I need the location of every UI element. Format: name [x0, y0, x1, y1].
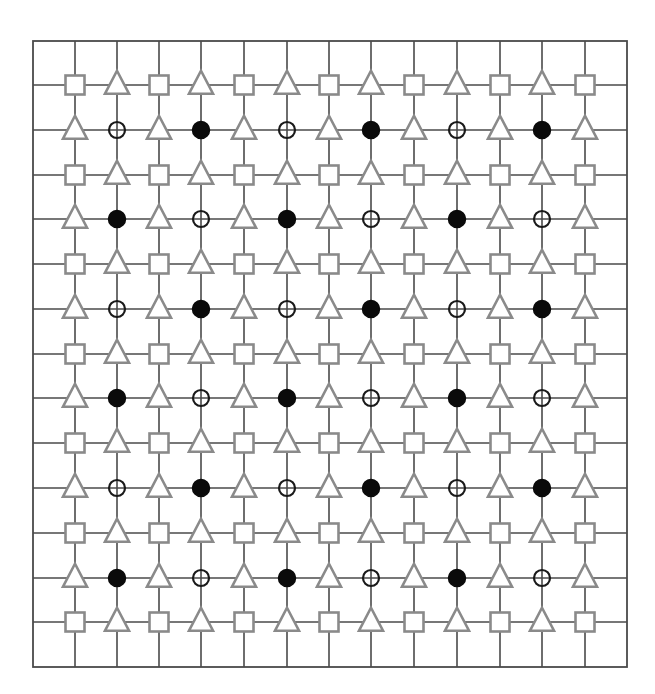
triangle-site-icon [445, 519, 469, 542]
square-site-icon [150, 524, 169, 543]
square-site-icon [576, 76, 595, 95]
square-site-icon [491, 345, 510, 364]
square-site-icon [235, 524, 254, 543]
triangle-site-icon [317, 474, 341, 497]
filled-circle-site-icon [109, 390, 126, 407]
filled-circle-site-icon [449, 570, 466, 587]
square-site-icon [576, 524, 595, 543]
square-site-icon [491, 524, 510, 543]
square-site-icon [150, 613, 169, 632]
triangle-site-icon [232, 384, 256, 407]
triangle-site-icon [530, 519, 554, 542]
square-site-icon [235, 166, 254, 185]
square-site-icon [405, 76, 424, 95]
square-site-icon [491, 255, 510, 274]
triangle-site-icon [359, 250, 383, 273]
triangle-site-icon [147, 295, 171, 318]
triangle-site-icon [445, 429, 469, 452]
triangle-site-icon [275, 519, 299, 542]
triangle-site-icon [63, 295, 87, 318]
triangle-site-icon [105, 161, 129, 184]
triangle-site-icon [530, 608, 554, 631]
triangle-site-icon [530, 250, 554, 273]
triangle-site-icon [488, 564, 512, 587]
triangle-site-icon [63, 564, 87, 587]
triangle-site-icon [275, 71, 299, 94]
square-site-icon [405, 524, 424, 543]
square-site-icon [66, 613, 85, 632]
square-site-icon [150, 255, 169, 274]
square-site-icon [235, 255, 254, 274]
filled-circle-site-icon [279, 390, 296, 407]
triangle-site-icon [63, 384, 87, 407]
triangle-site-icon [105, 429, 129, 452]
square-site-icon [320, 345, 339, 364]
square-site-icon [66, 255, 85, 274]
triangle-site-icon [573, 564, 597, 587]
triangle-site-icon [105, 340, 129, 363]
triangle-site-icon [402, 384, 426, 407]
filled-circle-site-icon [109, 570, 126, 587]
square-site-icon [320, 255, 339, 274]
triangle-site-icon [530, 161, 554, 184]
triangle-site-icon [147, 384, 171, 407]
triangle-site-icon [147, 564, 171, 587]
filled-circle-site-icon [449, 211, 466, 228]
triangle-site-icon [147, 205, 171, 228]
square-site-icon [576, 613, 595, 632]
triangle-site-icon [359, 608, 383, 631]
square-site-icon [66, 434, 85, 453]
triangle-site-icon [359, 71, 383, 94]
triangle-site-icon [445, 71, 469, 94]
triangle-site-icon [275, 429, 299, 452]
filled-circle-site-icon [534, 480, 551, 497]
lattice-sites [63, 71, 597, 632]
triangle-site-icon [275, 608, 299, 631]
triangle-site-icon [359, 340, 383, 363]
lattice-diagram [0, 0, 655, 694]
filled-circle-site-icon [449, 390, 466, 407]
triangle-site-icon [105, 250, 129, 273]
square-site-icon [66, 345, 85, 364]
triangle-site-icon [63, 116, 87, 139]
square-site-icon [320, 613, 339, 632]
filled-circle-site-icon [363, 301, 380, 318]
filled-circle-site-icon [279, 211, 296, 228]
triangle-site-icon [232, 474, 256, 497]
triangle-site-icon [445, 340, 469, 363]
triangle-site-icon [105, 71, 129, 94]
triangle-site-icon [573, 474, 597, 497]
triangle-site-icon [189, 429, 213, 452]
triangle-site-icon [105, 608, 129, 631]
triangle-site-icon [232, 205, 256, 228]
square-site-icon [320, 434, 339, 453]
triangle-site-icon [317, 384, 341, 407]
square-site-icon [576, 255, 595, 274]
triangle-site-icon [232, 116, 256, 139]
triangle-site-icon [445, 161, 469, 184]
square-site-icon [235, 76, 254, 95]
triangle-site-icon [488, 295, 512, 318]
triangle-site-icon [317, 564, 341, 587]
filled-circle-site-icon [193, 301, 210, 318]
square-site-icon [150, 76, 169, 95]
square-site-icon [576, 345, 595, 364]
triangle-site-icon [488, 205, 512, 228]
square-site-icon [150, 434, 169, 453]
triangle-site-icon [147, 116, 171, 139]
triangle-site-icon [189, 340, 213, 363]
square-site-icon [320, 524, 339, 543]
square-site-icon [576, 166, 595, 185]
filled-circle-site-icon [534, 301, 551, 318]
triangle-site-icon [530, 71, 554, 94]
square-site-icon [66, 524, 85, 543]
square-site-icon [405, 255, 424, 274]
triangle-site-icon [189, 161, 213, 184]
square-site-icon [405, 434, 424, 453]
triangle-site-icon [275, 340, 299, 363]
square-site-icon [235, 345, 254, 364]
triangle-site-icon [317, 205, 341, 228]
triangle-site-icon [232, 564, 256, 587]
triangle-site-icon [317, 295, 341, 318]
triangle-site-icon [359, 429, 383, 452]
